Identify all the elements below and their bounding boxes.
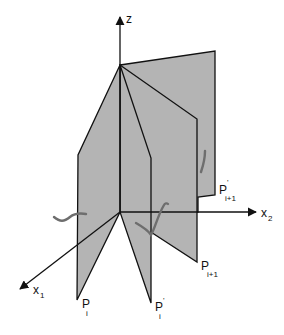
plane-label-p-i-plus-1-prime-mark: ' (227, 178, 229, 187)
x1-axis-label: x (33, 283, 39, 297)
plane-label-p-i-prime-mark: ' (163, 296, 165, 305)
x2-axis-subscript: 2 (268, 214, 273, 223)
half-planes-diagram: z x 2 x 1 P i P ' i P i+1 P ' i+1 (0, 0, 284, 335)
x1-axis (20, 212, 120, 289)
plane-label-p-i-plus-1-prime-sub: i+1 (225, 194, 236, 203)
diagram-canvas: z x 2 x 1 P i P ' i P i+1 P ' i+1 (0, 0, 284, 335)
plane-label-p-i-plus-1-sub: i+1 (207, 270, 218, 279)
plane-p-i (77, 65, 120, 300)
x2-axis-label: x (261, 206, 267, 220)
z-axis-label: z (126, 12, 132, 26)
plane-label-p-i-prime-sub: i (159, 312, 161, 321)
plane-label-p-i-sub: i (86, 309, 88, 318)
x1-axis-subscript: 1 (40, 291, 45, 300)
